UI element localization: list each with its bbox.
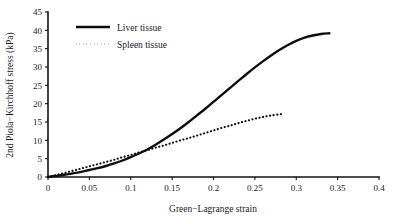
x-tick-label: 0.05 — [82, 183, 98, 193]
series-line-spleen-tissue — [48, 114, 284, 177]
y-axis-ticks: 051015202530354045 — [33, 7, 48, 182]
chart-legend: Liver tissue Spleen tissue — [76, 23, 167, 50]
x-tick-label: 0.25 — [247, 183, 263, 193]
x-tick-label: 0 — [46, 183, 51, 193]
x-tick-label: 0.15 — [164, 183, 180, 193]
legend-label-spleen-tissue: Spleen tissue — [117, 40, 167, 50]
x-axis-ticks: 00.050.10.150.20.250.30.350.4 — [46, 177, 385, 193]
x-tick-label: 0.35 — [330, 183, 346, 193]
y-tick-label: 20 — [33, 99, 43, 109]
y-tick-label: 35 — [33, 44, 43, 54]
x-tick-label: 0.2 — [208, 183, 219, 193]
y-tick-label: 10 — [33, 136, 43, 146]
x-tick-label: 0.3 — [291, 183, 303, 193]
x-axis-title: Green−Lagrange strain — [169, 204, 257, 214]
series-group — [48, 33, 329, 177]
chart-plot-area: 051015202530354045 00.050.10.150.20.250.… — [0, 0, 396, 220]
y-tick-label: 40 — [33, 26, 43, 36]
x-tick-label: 0.1 — [125, 183, 136, 193]
series-line-liver-tissue — [48, 33, 329, 177]
x-tick-label: 0.4 — [373, 183, 385, 193]
y-tick-label: 30 — [33, 62, 43, 72]
y-tick-label: 45 — [33, 7, 43, 17]
y-axis-title: 2nd Piola−Kirchhoff stress (kPa) — [5, 32, 16, 157]
y-tick-label: 25 — [33, 81, 43, 91]
legend-label-liver-tissue: Liver tissue — [117, 23, 162, 33]
y-tick-label: 0 — [38, 172, 43, 182]
y-tick-label: 5 — [38, 154, 43, 164]
axes-group — [48, 12, 379, 177]
y-tick-label: 15 — [33, 117, 43, 127]
chart-figure: 051015202530354045 00.050.10.150.20.250.… — [0, 0, 396, 220]
